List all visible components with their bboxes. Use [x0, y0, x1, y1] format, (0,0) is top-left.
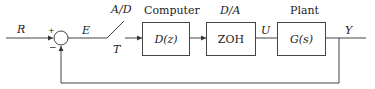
- computer-title: Computer: [144, 5, 200, 16]
- adc-label: A/D: [111, 4, 131, 15]
- controller-transfer-function: D(z): [154, 33, 177, 46]
- minus-sign: −: [49, 43, 57, 52]
- sample-period-label: T: [113, 44, 120, 55]
- reference-label: R: [17, 24, 25, 35]
- controller-block: D(z): [142, 22, 190, 56]
- plant-transfer-function: G(s): [290, 33, 313, 46]
- error-label: E: [82, 25, 90, 36]
- plus-sign: +: [48, 27, 55, 35]
- dac-title: D/A: [220, 5, 240, 16]
- zoh-label: ZOH: [218, 33, 244, 46]
- zoh-block: ZOH: [206, 22, 256, 56]
- output-label: Y: [345, 25, 352, 36]
- block-diagram: R + − E A/D T Computer D/A Plant D(z) ZO…: [0, 0, 375, 89]
- plant-title: Plant: [290, 5, 319, 16]
- control-signal-label: U: [261, 25, 270, 36]
- plant-block: G(s): [277, 22, 326, 56]
- sampler-switch-icon: [107, 21, 124, 38]
